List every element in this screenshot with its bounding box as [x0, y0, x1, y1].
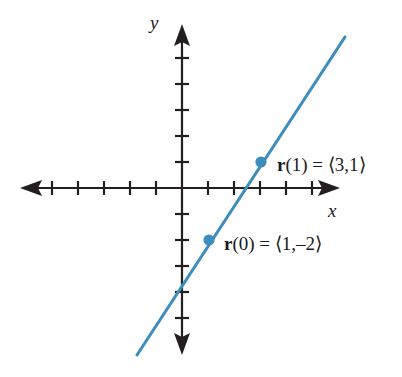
vector-function-graph-figure: y x r(1) = ⟨3,1⟩ r(0) = ⟨1,–2⟩	[0, 0, 402, 377]
point-r1-marker	[255, 156, 266, 167]
point-label-r1-value: (1) = ⟨3,1⟩	[285, 154, 365, 175]
point-r0-marker	[203, 234, 214, 245]
x-axis-label: x	[328, 201, 336, 220]
y-axis-label: y	[150, 13, 158, 32]
point-label-r1: r(1) = ⟨3,1⟩	[277, 155, 366, 174]
point-label-r0-value: (0) = ⟨1,–2⟩	[232, 233, 322, 254]
coordinate-plane-svg	[0, 0, 402, 377]
vector-function-line	[137, 37, 345, 355]
point-label-r0: r(0) = ⟨1,–2⟩	[224, 234, 322, 253]
